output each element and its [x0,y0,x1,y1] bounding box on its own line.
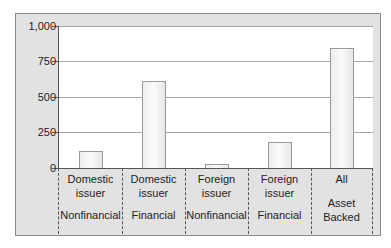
category-line1: Domestic [59,172,122,186]
category-label-domestic-financial: Domestic issuer Financial [122,172,185,222]
category-sub: Backed [311,210,372,224]
category-sub: Financial [248,208,311,222]
x-axis [52,168,373,169]
category-line2: issuer [59,186,122,200]
category-label-domestic-nonfinancial: Domestic issuer Nonfinancial [59,172,122,222]
y-tick-label: 0 [16,162,56,174]
category-divider [372,168,373,234]
gridline-500 [58,97,373,98]
bar-domestic-nonfinancial [79,151,103,168]
category-line1: Foreign [185,172,248,186]
y-axis [58,26,59,169]
category-sub: Asset [311,196,372,210]
category-line1: Domestic [122,172,185,186]
y-tick-label: 1,000 [16,20,56,32]
gridline-250 [58,132,373,133]
category-label-foreign-nonfinancial: Foreign issuer Nonfinancial [185,172,248,222]
gridline-750 [58,61,373,62]
category-line2: issuer [185,186,248,200]
bar-foreign-nonfinancial [205,164,229,168]
y-tick-label: 500 [16,91,56,103]
category-sub: Nonfinancial [185,208,248,222]
category-line2: issuer [248,186,311,200]
category-label-all-asset-backed: All Asset Backed [311,172,372,224]
category-label-foreign-financial: Foreign issuer Financial [248,172,311,222]
plot-area [58,26,373,168]
bar-domestic-financial [142,81,166,168]
category-sub: Nonfinancial [59,208,122,222]
category-sub: Financial [122,208,185,222]
bar-all-asset-backed [330,48,354,168]
y-tick-label: 250 [16,126,56,138]
category-line1: Foreign [248,172,311,186]
category-line2: issuer [122,186,185,200]
y-tick-label: 750 [16,55,56,67]
gridline-1000 [58,26,373,27]
category-line1: All [311,172,372,186]
bar-foreign-financial [268,142,292,168]
